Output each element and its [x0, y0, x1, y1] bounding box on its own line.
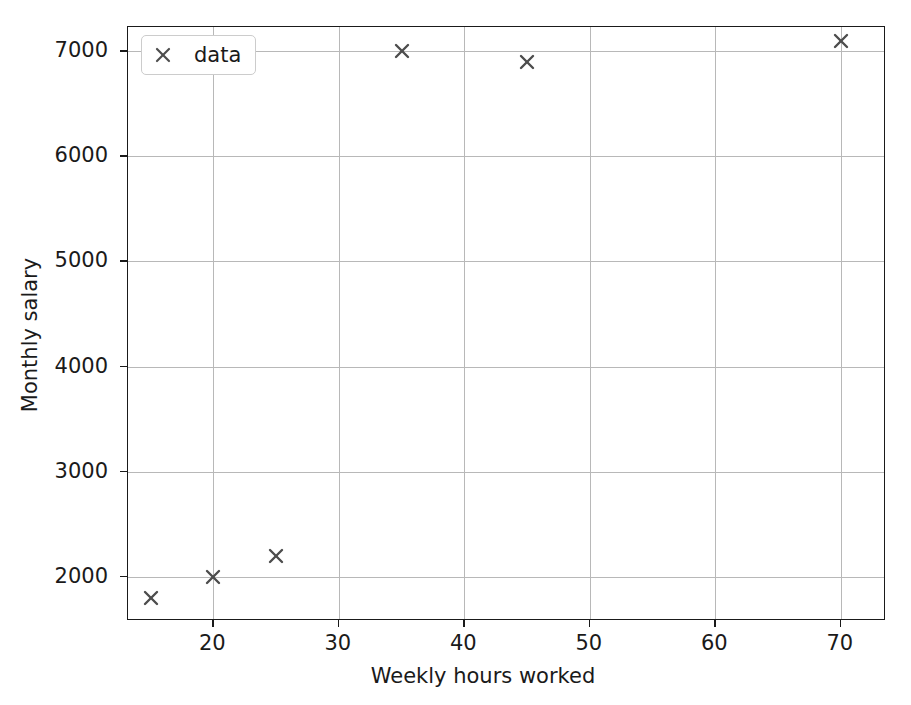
x-axis-tick-label: 70 — [826, 631, 853, 655]
y-axis-tick — [120, 155, 127, 157]
y-axis-tick-label: 2000 — [34, 564, 108, 588]
chart-legend: data — [141, 35, 256, 75]
gridline-horizontal — [128, 261, 884, 262]
y-axis-tick — [120, 471, 127, 473]
y-axis-tick-label: 7000 — [34, 38, 108, 62]
y-axis-tick — [120, 50, 127, 52]
x-axis-title: Weekly hours worked — [0, 664, 911, 688]
x-axis-tick-label: 60 — [701, 631, 728, 655]
x-marker-icon — [266, 546, 286, 566]
x-axis-tick — [463, 620, 465, 627]
gridline-vertical — [841, 27, 842, 619]
x-axis-tick-label: 50 — [575, 631, 602, 655]
x-axis-tick-label: 30 — [324, 631, 351, 655]
gridline-horizontal — [128, 472, 884, 473]
gridline-horizontal — [128, 577, 884, 578]
x-axis-tick-label: 20 — [199, 631, 226, 655]
x-axis-tick — [589, 620, 591, 627]
y-axis-tick — [120, 576, 127, 578]
x-marker-icon — [152, 44, 174, 66]
y-axis-tick — [120, 366, 127, 368]
gridline-vertical — [213, 27, 214, 619]
gridline-vertical — [715, 27, 716, 619]
gridline-vertical — [464, 27, 465, 619]
gridline-horizontal — [128, 156, 884, 157]
x-axis-title-text: Weekly hours worked — [371, 664, 596, 688]
y-axis-tick-label: 3000 — [34, 459, 108, 483]
gridline-horizontal — [128, 367, 884, 368]
legend-entry-label: data — [194, 43, 241, 67]
x-marker-icon — [517, 52, 537, 72]
scatter-chart-figure: data 200030004000500060007000 2030405060… — [0, 0, 911, 705]
gridline-vertical — [590, 27, 591, 619]
y-axis-tick-label: 5000 — [34, 248, 108, 272]
gridline-vertical — [339, 27, 340, 619]
x-axis-tick — [212, 620, 214, 627]
x-axis-tick — [714, 620, 716, 627]
y-axis-title: Monthly salary — [18, 185, 42, 485]
y-axis-tick-label: 6000 — [34, 143, 108, 167]
x-marker-icon — [141, 588, 161, 608]
plot-area: data — [127, 26, 885, 620]
y-axis-tick — [120, 260, 127, 262]
y-axis-tick-label: 4000 — [34, 354, 108, 378]
x-axis-tick — [338, 620, 340, 627]
x-axis-tick-label: 40 — [450, 631, 477, 655]
x-axis-tick — [840, 620, 842, 627]
